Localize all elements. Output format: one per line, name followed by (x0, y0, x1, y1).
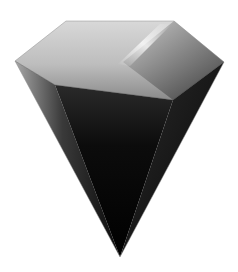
image-canvas (0, 0, 238, 272)
diamond-gem-graphic (0, 0, 238, 272)
